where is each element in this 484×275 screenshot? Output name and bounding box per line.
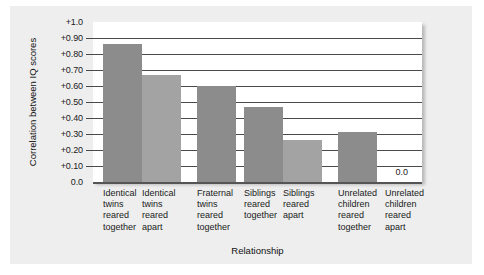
y-axis-tick-mark: [86, 102, 93, 103]
chart-figure: Correlation between IQ scores +1.0+0.90+…: [0, 0, 484, 275]
y-axis-tick-label: 0.0: [71, 177, 83, 187]
gridline: [93, 70, 422, 71]
y-axis-tick-mark: [86, 38, 93, 39]
x-axis-category-label: Fraternal twins reared together: [197, 188, 233, 233]
y-axis-tick-label: +0.40: [61, 113, 83, 123]
x-axis-category-label: Unrelated children reared together: [338, 188, 377, 233]
x-axis-category-label: Identical twins reared together: [103, 188, 137, 233]
bar: [244, 107, 283, 182]
bar: [142, 75, 181, 182]
x-axis-title: Relationship: [93, 245, 422, 256]
plot-area-wrapper: 0.0: [93, 22, 422, 182]
y-axis-tick-mark: [86, 118, 93, 119]
y-axis-tick-label: +0.10: [61, 161, 83, 171]
bar: [197, 86, 236, 182]
y-axis-tick-label: +0.20: [61, 145, 83, 155]
y-axis-tick-label: +1.0: [66, 17, 83, 27]
y-axis-tick-label: +0.80: [61, 49, 83, 59]
plot-area: 0.0: [93, 22, 422, 184]
y-axis-tick-label: +0.70: [61, 65, 83, 75]
bar: [283, 140, 322, 182]
y-axis-tick-mark: [86, 86, 93, 87]
y-axis-tick-mark: [86, 54, 93, 55]
y-axis-tick-mark: [86, 134, 93, 135]
y-axis: +1.0+0.90+0.80+0.70+0.60+0.50+0.40+0.30+…: [0, 22, 93, 184]
y-axis-tick-mark: [86, 70, 93, 71]
bar: [338, 132, 377, 182]
gridline: [93, 54, 422, 55]
x-axis-category-label: Identical twins reared apart: [142, 188, 176, 233]
x-axis-category-label: Unrelated children reared apart: [385, 188, 424, 233]
y-axis-tick-label: +0.60: [61, 81, 83, 91]
gridline: [93, 38, 422, 39]
y-axis-tick-label: +0.50: [61, 97, 83, 107]
x-axis-categories: Identical twins reared togetherIdentical…: [93, 188, 433, 244]
y-axis-tick-mark: [86, 166, 93, 167]
y-axis-tick-label: +0.30: [61, 129, 83, 139]
x-axis-category-label: Siblings reared apart: [283, 188, 315, 222]
bar-value-label: 0.0: [396, 167, 409, 177]
x-axis-category-label: Siblings reared together: [244, 188, 277, 222]
y-axis-tick-mark: [86, 150, 93, 151]
y-axis-tick-label: +0.90: [61, 33, 83, 43]
bar: [103, 44, 142, 182]
